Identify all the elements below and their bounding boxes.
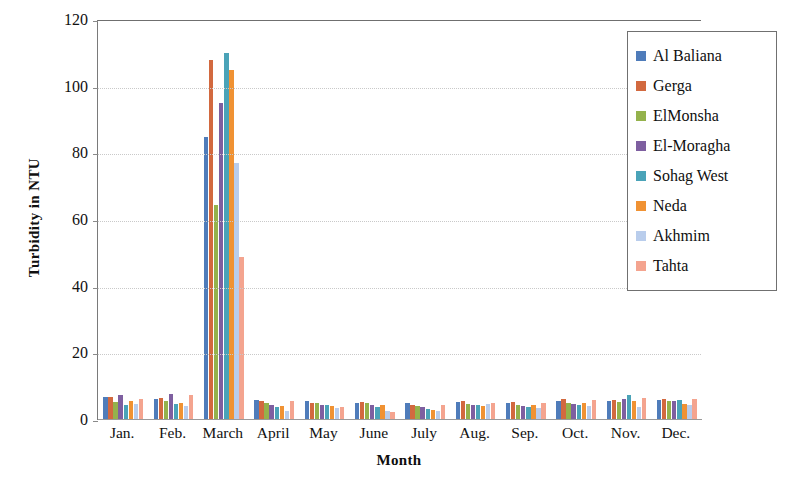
bar[interactable] [466,404,470,420]
bar[interactable] [259,401,263,420]
bar[interactable] [410,405,414,420]
bar[interactable] [280,406,284,420]
bar[interactable] [526,407,530,420]
bar[interactable] [204,137,208,420]
bar[interactable] [179,403,183,420]
bar[interactable] [657,400,661,420]
bar[interactable] [642,398,646,420]
bar[interactable] [471,405,475,420]
bar[interactable] [229,70,233,420]
bar[interactable] [254,400,258,420]
bar[interactable] [481,406,485,420]
bar[interactable] [169,394,173,420]
bar[interactable] [134,404,138,420]
bar[interactable] [436,411,440,420]
bar[interactable] [607,401,611,420]
bar[interactable] [380,405,384,420]
bar[interactable] [189,395,193,420]
bar[interactable] [456,402,460,420]
bar[interactable] [461,401,465,420]
legend-item-neda[interactable]: Neda [636,191,770,221]
bar[interactable] [531,405,535,420]
bar[interactable] [511,402,515,420]
bar[interactable] [506,403,510,420]
bar[interactable] [209,60,213,420]
bar[interactable] [582,403,586,420]
bar[interactable] [124,405,128,420]
bar[interactable] [385,411,389,420]
bar[interactable] [305,401,309,420]
bar[interactable] [355,403,359,420]
bar[interactable] [561,399,565,420]
bar[interactable] [285,411,289,420]
bar[interactable] [375,407,379,420]
bar[interactable] [415,406,419,420]
bar[interactable] [264,403,268,420]
bar[interactable] [159,398,163,420]
legend-item-akhmim[interactable]: Akhmim [636,221,770,251]
bar[interactable] [164,401,168,420]
bar[interactable] [637,407,641,420]
bar[interactable] [214,205,218,420]
bar[interactable] [587,406,591,420]
bar[interactable] [174,404,178,420]
bar[interactable] [571,404,575,420]
bar[interactable] [239,257,243,420]
bar[interactable] [556,401,560,420]
legend-item-elmonsha[interactable]: ElMonsha [636,101,770,131]
bar[interactable] [667,401,671,420]
bar[interactable] [290,401,294,420]
bar[interactable] [219,103,223,420]
bar[interactable] [103,397,107,420]
bar[interactable] [617,402,621,420]
bar[interactable] [365,403,369,420]
bar[interactable] [335,408,339,420]
bar[interactable] [577,405,581,420]
bar[interactable] [516,405,520,420]
bar[interactable] [662,399,666,420]
bar[interactable] [476,405,480,420]
bar[interactable] [310,403,314,420]
bar[interactable] [390,412,394,420]
bar[interactable] [224,53,228,420]
legend-item-gerga[interactable]: Gerga [636,71,770,101]
bar[interactable] [234,163,238,420]
legend-item-tahta[interactable]: Tahta [636,251,770,281]
bar[interactable] [592,400,596,420]
bar[interactable] [360,402,364,420]
bar[interactable] [692,399,696,420]
bar[interactable] [118,395,122,420]
bar[interactable] [113,402,117,420]
bar[interactable] [431,410,435,420]
bar[interactable] [491,403,495,420]
bar[interactable] [330,406,334,420]
bar[interactable] [320,405,324,420]
bar[interactable] [405,403,409,420]
bar[interactable] [612,400,616,420]
bar[interactable] [672,401,676,420]
bar[interactable] [627,395,631,420]
bar[interactable] [184,406,188,420]
bar[interactable] [139,399,143,420]
bar[interactable] [441,405,445,420]
bar[interactable] [541,403,545,420]
bar[interactable] [687,405,691,420]
bar[interactable] [370,405,374,420]
legend-item-el-moragha[interactable]: El-Moragha [636,131,770,161]
bar[interactable] [340,407,344,420]
bar[interactable] [536,408,540,420]
bar[interactable] [521,406,525,420]
bar[interactable] [154,399,158,420]
bar[interactable] [426,409,430,420]
bar[interactable] [275,407,279,420]
bar[interactable] [269,405,273,420]
bar[interactable] [129,401,133,420]
bar[interactable] [108,397,112,420]
bar[interactable] [486,404,490,420]
bar[interactable] [682,404,686,420]
bar[interactable] [325,405,329,420]
legend-item-sohag-west[interactable]: Sohag West [636,161,770,191]
bar[interactable] [315,403,319,420]
bar[interactable] [420,407,424,420]
legend-item-al-baliana[interactable]: Al Baliana [636,41,770,71]
